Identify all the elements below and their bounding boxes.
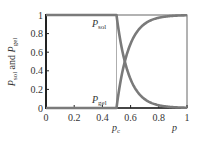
y-tick-label: 0.4 <box>31 65 44 76</box>
x-tick-label: 0.2 <box>68 112 81 123</box>
y-axis-label: Psol and Pgel <box>6 38 19 87</box>
y-tick-label: 0.2 <box>31 84 44 95</box>
x-axis-label: p <box>171 122 177 133</box>
y-tick-label: 0 <box>38 103 43 114</box>
y-tick-label: 1 <box>38 10 43 21</box>
x-tick-label: 0.8 <box>153 112 166 123</box>
x-tick-label: 0 <box>44 112 49 123</box>
y-tick-label: 0.6 <box>31 47 44 58</box>
p-sol-label: Psol <box>91 18 106 31</box>
p-gel-label: Pgel <box>91 94 107 107</box>
percolation-chart: 00.20.40.60.81 00.20.40.60.81 Psol Pgel … <box>0 0 201 143</box>
y-tick-label: 0.8 <box>31 28 44 39</box>
x-tick-label: 0.4 <box>96 112 109 123</box>
x-tick-label: 1 <box>185 112 190 123</box>
pc-label: pc <box>111 122 120 135</box>
x-tick-label: 0.6 <box>124 112 137 123</box>
